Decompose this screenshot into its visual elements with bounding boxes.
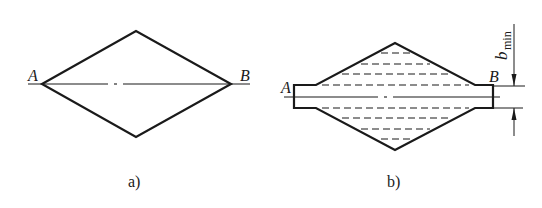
- point-label-a-left: A: [27, 67, 38, 84]
- dimension-label: b min: [492, 31, 514, 60]
- point-label-a-right: B: [240, 67, 250, 84]
- caption-b: b): [387, 173, 400, 191]
- arrow-up-icon: [512, 108, 517, 120]
- hidden-lines: [322, 53, 469, 139]
- dimension-label-subscript: min: [500, 31, 514, 50]
- diagram-canvas: A B a) b min: [0, 0, 542, 208]
- figure-a: A B a): [27, 31, 250, 191]
- caption-a: a): [128, 173, 140, 191]
- point-label-b-left: A: [280, 79, 291, 96]
- arrow-down-icon: [512, 74, 517, 86]
- dimension-label-main: b: [492, 52, 511, 61]
- point-label-b-right: B: [489, 68, 499, 85]
- figure-b: b min A B b): [280, 24, 525, 191]
